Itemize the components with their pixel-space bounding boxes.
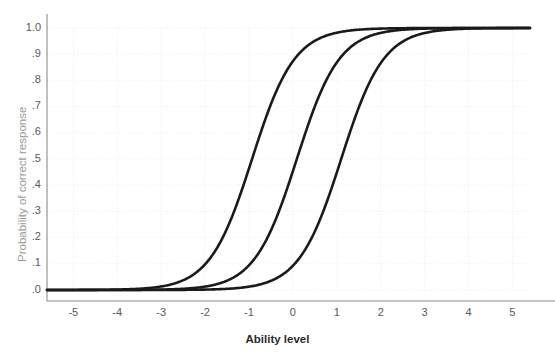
y-axis-title: Probability of correct response xyxy=(16,107,28,262)
x-tick-label: -5 xyxy=(53,306,93,318)
x-tick-label: 4 xyxy=(449,306,489,318)
y-tick-label: 1.0 xyxy=(8,21,41,33)
y-tick-label: .9 xyxy=(8,47,41,59)
x-tick-label: -2 xyxy=(185,306,225,318)
x-tick-label: -4 xyxy=(97,306,137,318)
x-tick-label: 3 xyxy=(405,306,445,318)
x-tick-label: 1 xyxy=(317,306,357,318)
y-tick-label: .0 xyxy=(8,283,41,295)
x-tick-label: 0 xyxy=(273,306,313,318)
x-tick-label: 5 xyxy=(492,306,532,318)
y-tick-label: .8 xyxy=(8,73,41,85)
x-axis-title: Ability level xyxy=(0,333,555,345)
chart-container: 1.0.9.8.7.6.5.4.3.2.1.0 -5-4-3-2-1012345… xyxy=(0,0,555,362)
x-tick-label: -3 xyxy=(141,306,181,318)
x-tick-label: 2 xyxy=(361,306,401,318)
x-tick-label: -1 xyxy=(229,306,269,318)
